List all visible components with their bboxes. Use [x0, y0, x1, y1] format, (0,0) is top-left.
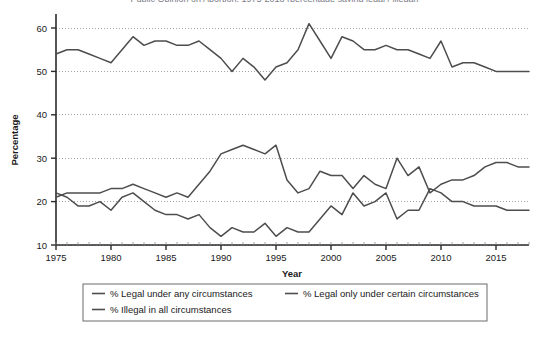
axis-lines	[56, 14, 529, 245]
y-tick-label: 40	[36, 109, 47, 120]
legend-label-1: % Legal under any circumstances	[110, 288, 253, 299]
legend: % Legal under any circumstances% Legal o…	[83, 284, 487, 321]
legend-label-3: % Illegal in all circumstances	[110, 304, 232, 315]
y-tick-label: 60	[36, 23, 47, 34]
x-axis-title: Year	[282, 268, 302, 279]
x-tick-label: 2000	[320, 252, 341, 263]
x-tick-label: 1980	[100, 252, 121, 263]
series-line-2	[56, 145, 529, 197]
x-tick-label: 1975	[45, 252, 66, 263]
y-axis-ticks: 102030405060	[36, 23, 56, 251]
x-tick-label: 1990	[210, 252, 231, 263]
x-tick-label: 2015	[485, 252, 506, 263]
chart-figure: Public Opinion on Abortion, 1975-2018 (p…	[0, 0, 549, 337]
chart-svg: 102030405060 197519801985199019952000200…	[0, 0, 549, 337]
data-series	[56, 24, 529, 237]
y-axis-title: Percentage	[9, 114, 20, 165]
x-tick-label: 1985	[155, 252, 176, 263]
y-tick-label: 20	[36, 196, 47, 207]
cut-off-chart-title: Public Opinion on Abortion, 1975-2018 (p…	[0, 0, 549, 2]
y-tick-label: 50	[36, 66, 47, 77]
gridlines	[56, 28, 529, 245]
legend-label-2: % Legal only under certain circumstances	[303, 288, 479, 299]
x-tick-label: 1995	[265, 252, 286, 263]
x-tick-label: 2010	[430, 252, 451, 263]
y-tick-label: 30	[36, 153, 47, 164]
series-line-3	[56, 189, 529, 237]
y-tick-label: 10	[36, 240, 47, 251]
x-axis-ticks: 197519801985199019952000200520102015	[45, 245, 506, 263]
x-tick-label: 2005	[375, 252, 396, 263]
